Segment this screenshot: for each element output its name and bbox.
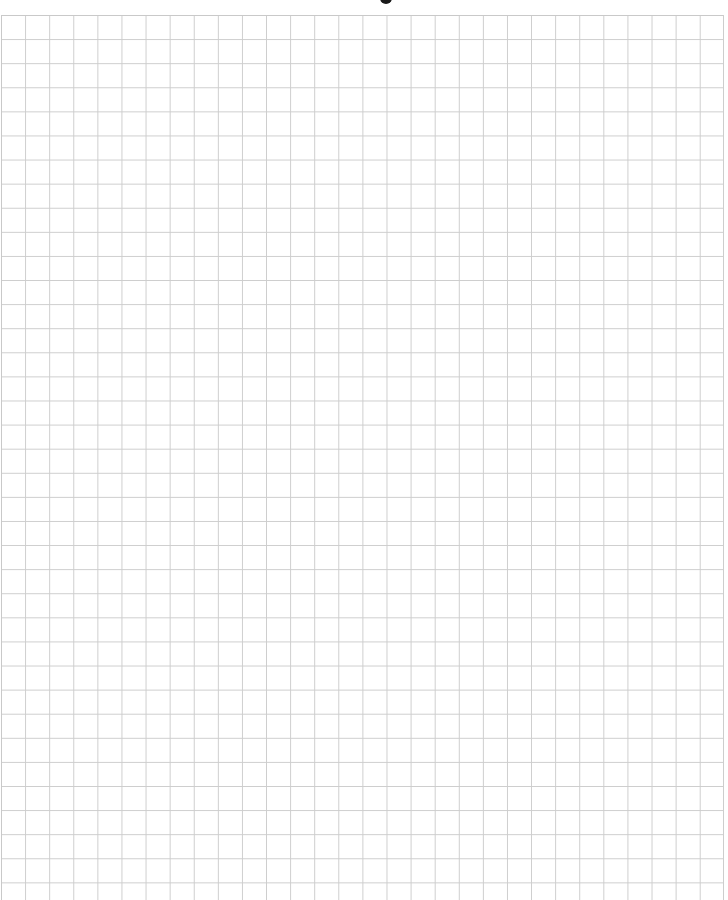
graph-paper-page [0, 0, 728, 900]
graph-grid [1, 15, 724, 900]
grid-right-border [723, 15, 724, 900]
top-cutoff-mark [380, 0, 392, 4]
